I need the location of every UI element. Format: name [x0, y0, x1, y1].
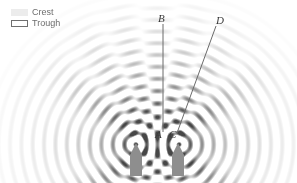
source-marker-left: [130, 143, 142, 176]
legend-item-crest: Crest: [11, 7, 54, 17]
point-label-d: D: [216, 15, 224, 26]
point-label-b: B: [158, 13, 165, 24]
legend-item-trough: Trough: [11, 18, 60, 28]
crest-swatch-icon: [11, 9, 28, 16]
trough-swatch-icon: [11, 20, 28, 27]
line-cd: [177, 26, 216, 133]
wave-interference-figure: Crest Trough B D A C: [0, 0, 297, 183]
source-marker-right: [172, 143, 184, 176]
wave-sources: [130, 143, 184, 176]
path-lines: [163, 24, 216, 133]
point-label-c: C: [169, 129, 176, 140]
point-label-a: A: [155, 129, 162, 140]
legend-label-trough: Trough: [32, 19, 60, 28]
legend-label-crest: Crest: [32, 8, 54, 17]
legend: Crest Trough: [11, 7, 75, 30]
